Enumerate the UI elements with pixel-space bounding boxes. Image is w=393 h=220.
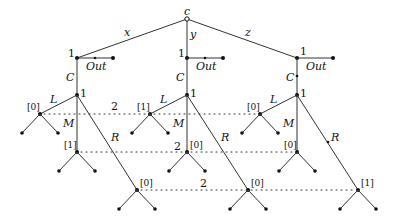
chance-label: c <box>184 5 190 18</box>
action-R: R <box>110 131 119 144</box>
move-y-label: y <box>189 28 197 41</box>
action-L: L <box>159 93 167 106</box>
player2-label: 2 <box>174 140 181 153</box>
belief-label: [0] <box>247 102 260 112</box>
belief-label: [1] <box>361 178 374 188</box>
belief-label: [0] <box>284 140 297 150</box>
belief-label: [0] <box>27 102 40 112</box>
out-label: Out <box>196 60 217 73</box>
out-label: Out <box>86 60 107 73</box>
move-z-label: z <box>244 26 251 39</box>
action-M: M <box>172 117 185 130</box>
edge-z <box>187 19 297 58</box>
player1-label: 1 <box>68 47 75 60</box>
player1-label: 1 <box>178 47 185 60</box>
belief-label: [1] <box>64 140 77 150</box>
player1-label: 1 <box>80 87 87 100</box>
action-R: R <box>330 131 339 144</box>
action-L: L <box>269 93 277 106</box>
player2-label: 2 <box>111 100 118 113</box>
belief-label: [0] <box>251 178 264 188</box>
continue-label: C <box>286 71 295 84</box>
player1-label: 1 <box>300 87 307 100</box>
continue-label: C <box>66 71 75 84</box>
belief-label: [1] <box>137 102 150 112</box>
action-R: R <box>220 131 229 144</box>
out-label: Out <box>306 60 327 73</box>
player2-label: 2 <box>200 177 207 190</box>
belief-label: [0] <box>190 140 203 150</box>
belief-label: [0] <box>140 178 153 188</box>
continue-label: C <box>176 71 185 84</box>
action-M: M <box>282 117 295 130</box>
action-M: M <box>62 117 75 130</box>
game-tree: c x y z 1 Out C 1 L M R [0] [1] [0] 1 Ou… <box>0 0 393 220</box>
edge-x <box>77 19 187 58</box>
player1-label: 1 <box>190 87 197 100</box>
action-L: L <box>49 93 57 106</box>
player1-label: 1 <box>300 45 307 58</box>
move-x-label: x <box>124 26 131 39</box>
